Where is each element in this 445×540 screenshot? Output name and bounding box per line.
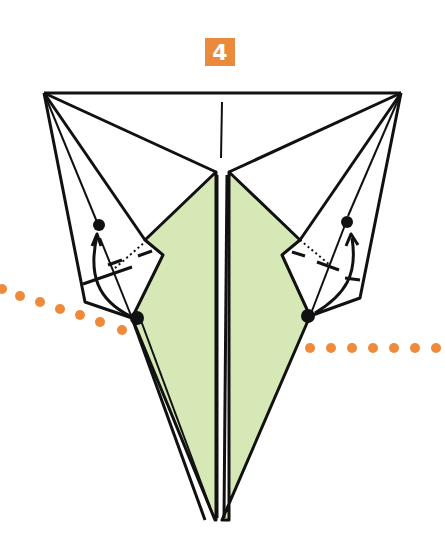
left-upper-point: [93, 219, 105, 231]
right-upper-point: [341, 216, 353, 228]
origami-diagram: [0, 0, 445, 540]
left-lower-point: [130, 311, 144, 325]
right-dotted-guide: [305, 343, 441, 353]
right-lower-point: [301, 309, 315, 323]
top-outline: [44, 93, 401, 172]
left-green-flap: [132, 172, 216, 520]
right-green-flap: [222, 172, 310, 520]
right-crease-dotted: [300, 240, 330, 265]
